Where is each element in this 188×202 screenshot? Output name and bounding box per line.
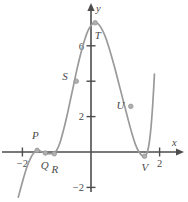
point-label-T: T [95,29,102,41]
point-marker-T [93,20,98,25]
x-axis-label: x [171,137,177,148]
point-label-U: U [117,99,126,111]
labeled-point-V: V [141,154,149,173]
x-axis-arrowhead [176,148,184,155]
labeled-point-P: P [31,129,39,152]
point-label-V: V [141,161,149,173]
point-label-S: S [62,70,68,82]
y-tick-label-3: −2 [73,182,84,193]
point-label-P: P [31,129,39,141]
point-marker-S [74,79,79,84]
point-label-R: R [51,163,59,175]
point-marker-P [35,148,40,153]
graph-figure: −2226−2 PQRSTUV x y [0,0,188,202]
curve-group [18,23,154,197]
point-marker-R [52,151,57,156]
coordinate-plane-svg: −2226−2 PQRSTUV x y [0,0,188,202]
point-marker-V [142,154,147,159]
point-label-Q: Q [41,159,49,171]
function-curve [18,23,154,197]
x-tick-label-1: 2 [157,158,162,169]
labeled-point-R: R [51,151,59,175]
point-marker-U [128,104,133,109]
labeled-point-T: T [93,20,102,41]
y-tick-label-0: 2 [79,111,84,122]
labeled-point-Q: Q [41,151,49,172]
y-axis-label: y [95,3,101,14]
point-marker-Q [43,151,48,156]
y-axis-arrowhead [87,3,94,11]
